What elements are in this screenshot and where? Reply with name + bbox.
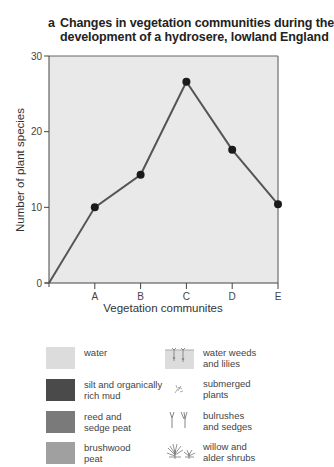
legend-swatch	[46, 411, 75, 433]
legend-item: water weeds and lilies	[165, 347, 283, 369]
legend-label: brushwood peat	[84, 442, 164, 464]
legend-label: submerged plants	[203, 378, 283, 400]
bulrushes-icon	[165, 410, 194, 432]
legend-label: water	[84, 347, 164, 358]
legend-label: bulrushes and sedges	[203, 410, 283, 432]
legend-swatch	[46, 347, 75, 369]
willow-shrubs-icon	[165, 441, 194, 463]
legend-label: reed and sedge peat	[84, 411, 164, 433]
legend-swatch	[46, 442, 75, 464]
legend-item: water	[46, 347, 164, 369]
legend-item: bulrushes and sedges	[165, 410, 283, 432]
legend-item: brushwood peat	[46, 442, 164, 464]
legend-label: water weeds and lilies	[203, 347, 283, 369]
legend-item: silt and organically rich mud	[46, 379, 164, 401]
legend-label: willow and alder shrubs	[203, 441, 283, 463]
legend-item: submerged plants	[165, 378, 283, 400]
water-weeds-icon	[165, 347, 194, 369]
legend-label: silt and organically rich mud	[84, 379, 164, 401]
legend-item: willow and alder shrubs	[165, 441, 283, 463]
legend-swatch	[46, 379, 75, 401]
submerged-plants-icon	[165, 378, 194, 400]
legend-item: reed and sedge peat	[46, 411, 164, 433]
